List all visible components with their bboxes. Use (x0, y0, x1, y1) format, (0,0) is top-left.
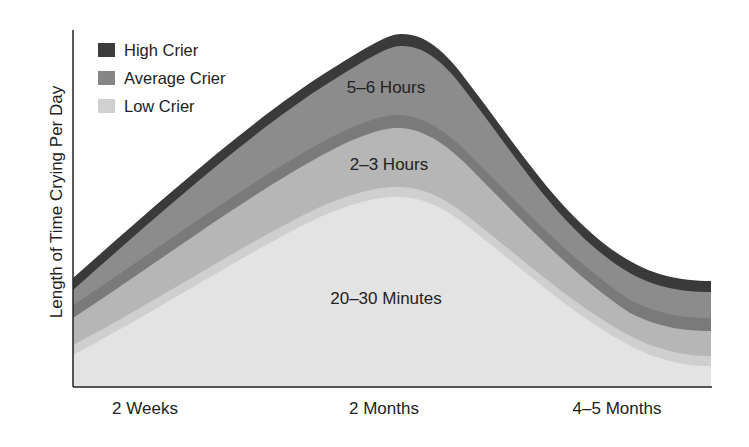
legend-label: Average Crier (124, 69, 226, 88)
legend-label: High Crier (124, 41, 198, 60)
x-tick-4-5-months: 4–5 Months (573, 399, 662, 419)
legend-swatch-low (98, 99, 115, 113)
y-axis-label: Length of Time Crying Per Day (47, 86, 67, 318)
legend-item-high-crier: High Crier (98, 36, 226, 64)
x-tick-2-months: 2 Months (349, 399, 419, 419)
band-label-high: 5–6 Hours (347, 78, 425, 98)
legend-swatch-high (98, 43, 115, 57)
x-tick-2-weeks: 2 Weeks (112, 399, 178, 419)
band-label-average: 2–3 Hours (350, 155, 428, 175)
legend-item-average-crier: Average Crier (98, 64, 226, 92)
band-label-low: 20–30 Minutes (330, 289, 442, 309)
legend-item-low-crier: Low Crier (98, 92, 226, 120)
legend-swatch-average (98, 71, 115, 85)
legend-label: Low Crier (124, 97, 195, 116)
legend: High Crier Average Crier Low Crier (98, 36, 226, 120)
